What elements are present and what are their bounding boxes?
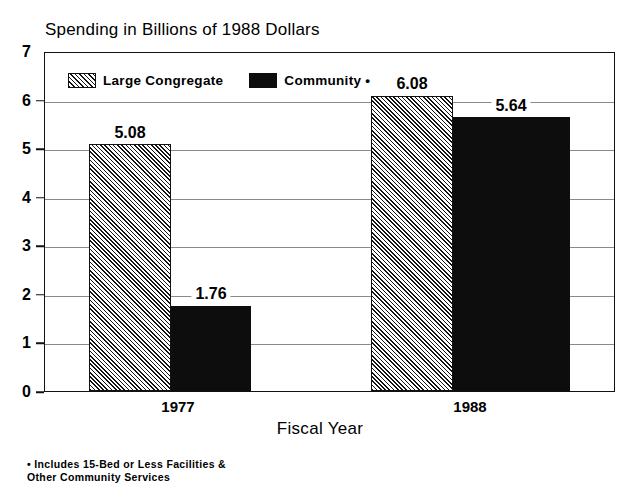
chart-title: Spending in Billions of 1988 Dollars [45, 20, 320, 40]
legend-item-community[interactable]: Community • [249, 73, 370, 88]
y-tick-mark-2 [36, 294, 44, 296]
bar-value-text: 5.08 [110, 124, 149, 141]
bar-chart: Spending in Billions of 1988 Dollars 0 1… [0, 0, 640, 499]
bar-1977-community[interactable] [171, 306, 251, 392]
bar-value-1977-large-congregate: 5.08 [110, 125, 149, 141]
y-tick-mark-4 [36, 197, 44, 199]
footnote-line-1: • Includes 15-Bed or Less Facilities & [27, 458, 226, 471]
footnote-line-2: Other Community Services [27, 471, 226, 484]
x-axis-title: Fiscal Year [0, 419, 640, 439]
chart-legend: Large Congregate Community • [68, 73, 370, 88]
bar-value-1988-community: 5.64 [491, 98, 530, 114]
bar-1977-large-congregate[interactable] [89, 144, 171, 391]
x-tick-label-1977: 1977 [161, 398, 194, 415]
y-axis: 0 1 2 3 4 5 6 7 [0, 52, 44, 392]
legend-label-community: Community • [284, 73, 370, 88]
bar-value-text: 6.08 [392, 75, 431, 92]
bar-value-1988-large-congregate: 6.08 [392, 76, 431, 92]
legend-item-large-congregate[interactable]: Large Congregate [68, 73, 223, 88]
y-tick-mark-6 [36, 100, 44, 102]
legend-swatch-solid-icon [249, 73, 277, 88]
y-tick-label-3: 3 [22, 238, 31, 254]
chart-footnote: • Includes 15-Bed or Less Facilities & O… [27, 458, 226, 484]
y-tick-label-7: 7 [22, 44, 31, 60]
bar-value-1977-community: 1.76 [191, 286, 230, 302]
bar-value-text: 1.76 [191, 285, 230, 302]
y-tick-mark-0 [36, 391, 44, 393]
y-tick-label-6: 6 [22, 93, 31, 109]
legend-label-large-congregate: Large Congregate [103, 73, 223, 88]
y-tick-mark-5 [36, 148, 44, 150]
y-tick-label-5: 5 [22, 141, 31, 157]
y-tick-label-2: 2 [22, 287, 31, 303]
bar-1988-large-congregate[interactable] [371, 96, 453, 391]
y-tick-label-0: 0 [22, 384, 31, 400]
bar-value-text: 5.64 [491, 97, 530, 114]
y-tick-label-4: 4 [22, 190, 31, 206]
bar-1988-community[interactable] [453, 117, 570, 391]
plot-area: 5.08 1.76 6.08 5.64 [44, 52, 615, 392]
x-tick-label-1988: 1988 [453, 398, 486, 415]
y-tick-mark-3 [36, 246, 44, 248]
y-tick-label-1: 1 [22, 335, 31, 351]
legend-swatch-hatched-icon [68, 73, 96, 88]
y-tick-mark-1 [36, 343, 44, 345]
